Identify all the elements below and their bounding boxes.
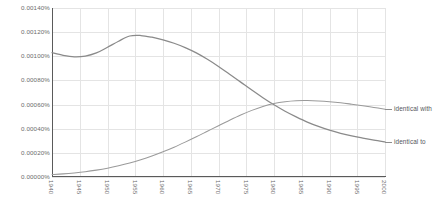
x-axis-tick-label: 1970 — [215, 180, 221, 194]
ngram-line-chart: 0.00000%0.00020%0.00040%0.00060%0.00080%… — [0, 0, 437, 218]
legend-leader-line — [385, 142, 392, 143]
legend-item-label[interactable]: identical to — [394, 139, 426, 145]
x-axis-tick-label: 1960 — [159, 180, 165, 194]
x-axis-tick-label: 1990 — [326, 180, 332, 194]
y-axis-tick-label: 0.00040% — [2, 126, 50, 132]
gridline-vertical — [385, 8, 386, 177]
y-axis-tick-label: 0.00020% — [2, 150, 50, 156]
x-axis-tick-label: 1940 — [48, 180, 54, 194]
x-axis-tick-label: 1980 — [270, 180, 276, 194]
x-axis-tick-label: 2000 — [381, 180, 387, 194]
x-axis-tick-label: 1975 — [242, 180, 248, 194]
y-axis-tick-label: 0.00060% — [2, 102, 50, 108]
x-axis-tick-label: 1995 — [353, 180, 359, 194]
y-axis-tick-label: 0.00140% — [2, 5, 50, 11]
x-axis-tick-label: 1985 — [298, 180, 304, 194]
x-axis-tick-label: 1965 — [187, 180, 193, 194]
series-line — [52, 101, 385, 175]
y-axis-tick-label: 0.00000% — [2, 174, 50, 180]
y-axis-tick-label: 0.00120% — [2, 29, 50, 35]
legend-item-label[interactable]: identical with — [394, 106, 432, 112]
legend-leader-line — [385, 109, 392, 110]
x-axis-tick-label: 1950 — [104, 180, 110, 194]
y-axis-tick-label: 0.00100% — [2, 53, 50, 59]
y-axis-tick-labels: 0.00000%0.00020%0.00040%0.00060%0.00080%… — [0, 0, 50, 218]
gridline-horizontal — [52, 177, 385, 178]
x-axis-tick-label: 1955 — [131, 180, 137, 194]
x-axis-tick-label: 1945 — [76, 180, 82, 194]
series-curves — [52, 8, 385, 177]
y-axis-tick-label: 0.00080% — [2, 77, 50, 83]
